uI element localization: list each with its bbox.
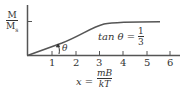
x-label-numerator: mB — [97, 68, 112, 78]
x-tick-label-4: 4 — [120, 58, 126, 68]
x-tick-label-6: 6 — [167, 58, 173, 68]
y-label-denominator: Ms — [6, 21, 18, 35]
tan-theta-denominator: 3 — [138, 37, 144, 47]
x-label-denominator: kT — [99, 79, 110, 89]
theta-angle-marker — [57, 44, 60, 54]
x-tick-label-5: 5 — [144, 58, 150, 68]
tan-theta-prefix: tan θ = — [98, 32, 135, 42]
tan-theta-numerator: 1 — [138, 26, 144, 36]
x-tick-label-2: 2 — [73, 58, 79, 68]
x-tick-label-3: 3 — [96, 58, 102, 68]
x-tick-label-1: 1 — [49, 58, 55, 68]
x-ticks — [52, 51, 170, 55]
x-axis-label-fraction: mB kT — [97, 68, 112, 89]
y-axis-label: M Ms — [6, 10, 18, 35]
tan-theta-fraction: 1 3 — [138, 26, 144, 47]
y-label-numerator: M — [8, 10, 17, 20]
x-axis-label-prefix: x = — [76, 77, 93, 87]
theta-label: θ — [62, 43, 67, 53]
